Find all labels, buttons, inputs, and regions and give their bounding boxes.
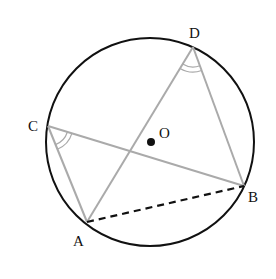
center-point-O bbox=[147, 138, 155, 146]
segment-CA bbox=[48, 126, 87, 222]
circle-diagram: D C O B A bbox=[0, 0, 276, 279]
segment-CB bbox=[48, 126, 244, 186]
segment-AB-dashed bbox=[87, 186, 244, 222]
label-B: B bbox=[248, 189, 258, 205]
label-D: D bbox=[189, 25, 200, 41]
label-A: A bbox=[73, 233, 84, 249]
angle-mark-C bbox=[56, 132, 72, 149]
segment-DA bbox=[87, 47, 193, 222]
label-O: O bbox=[159, 125, 170, 141]
angle-mark-D bbox=[180, 64, 202, 72]
segment-DB bbox=[193, 47, 244, 186]
label-C: C bbox=[28, 118, 38, 134]
